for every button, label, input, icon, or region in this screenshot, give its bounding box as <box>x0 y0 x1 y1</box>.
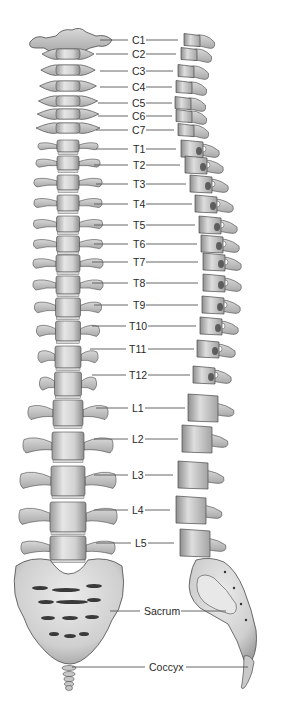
sacral-foramen <box>64 634 76 638</box>
vertebral-body <box>56 123 80 133</box>
rib-facet-shadow <box>218 260 224 268</box>
vertebra-t9-anterior <box>56 298 81 317</box>
intervertebral-disc <box>52 496 84 499</box>
vertebra-t7-anterior <box>56 255 80 272</box>
intervertebral-disc <box>54 426 82 429</box>
vertebra-c4-lateral <box>176 81 192 94</box>
label-c5: C5 <box>131 97 146 109</box>
label-t7: T7 <box>132 256 146 268</box>
coccyx-lateral <box>241 656 254 689</box>
transverse-process-right <box>79 143 98 150</box>
coccyx-segment-anterior <box>64 677 74 682</box>
vertebral-body <box>56 96 80 106</box>
sacral-foramen <box>32 586 48 590</box>
vertebra-t11-anterior <box>55 346 81 368</box>
sacral-foramen <box>41 616 55 620</box>
intervertebral-disc <box>58 152 78 155</box>
intervertebral-disc <box>58 190 78 193</box>
rib-facet-shadow <box>208 373 214 381</box>
label-c1: C1 <box>131 34 146 46</box>
vertebral-body <box>56 65 80 75</box>
label-t2: T2 <box>132 159 146 171</box>
label-t8: T8 <box>132 277 146 289</box>
intervertebral-disc <box>58 252 79 255</box>
sacral-foramen <box>52 588 80 592</box>
vertebra-l3-lateral <box>178 461 208 489</box>
sacral-foramen <box>62 616 78 620</box>
intervertebral-disc <box>58 170 78 173</box>
transverse-process-right <box>79 178 102 187</box>
sacrum-anterior <box>14 559 123 664</box>
intervertebral-disc <box>57 341 80 344</box>
vertebra-c2-lateral <box>181 48 197 61</box>
sacral-foramen <box>86 584 102 588</box>
intervertebral-disc <box>56 368 80 371</box>
label-c2: C2 <box>131 48 146 60</box>
transverse-process-right <box>81 302 102 313</box>
transverse-process-right <box>80 280 103 290</box>
rib-facet-shadow <box>214 223 220 231</box>
rib-facet-shadow <box>217 303 223 311</box>
transverse-process-right <box>80 219 103 228</box>
transverse-process-left <box>21 541 50 554</box>
label-t10: T10 <box>128 320 148 332</box>
lateral-view <box>175 34 257 689</box>
transverse-process-right <box>79 159 100 167</box>
intervertebral-disc <box>58 232 79 235</box>
sacral-foramen <box>87 598 101 602</box>
transverse-process-right <box>79 198 102 207</box>
transverse-process-left <box>38 143 57 150</box>
vertebra-c3-lateral <box>178 65 194 78</box>
sacral-foramen <box>85 615 99 619</box>
label-t9: T9 <box>132 299 146 311</box>
vertebral-body <box>56 49 80 59</box>
vertebra-l5-anterior <box>50 536 86 560</box>
transverse-process-left <box>28 405 53 419</box>
label-l3: L3 <box>131 469 145 481</box>
transverse-process-right <box>81 325 100 336</box>
transverse-process-left <box>39 377 54 390</box>
label-t12: T12 <box>128 369 148 381</box>
label-t3: T3 <box>132 178 146 190</box>
transverse-process-left <box>33 280 56 290</box>
vertebra-l5-lateral <box>180 529 210 557</box>
label-l4: L4 <box>131 504 145 516</box>
vertebra-c6-lateral <box>176 110 192 123</box>
transverse-process-left <box>19 508 50 524</box>
vertebra-t4-anterior <box>57 195 79 211</box>
vertebra-t12-anterior <box>55 372 82 396</box>
coccyx-segment-anterior <box>63 672 75 677</box>
vertebra-c1-lateral <box>184 34 200 47</box>
sacral-foramen <box>38 600 54 604</box>
label-l2: L2 <box>131 433 145 445</box>
label-t4: T4 <box>132 198 146 210</box>
vertebral-body <box>56 81 80 91</box>
sacral-foramen <box>49 632 59 636</box>
sacral-foramen <box>79 632 89 636</box>
label-l5: L5 <box>134 537 148 549</box>
vertebra-t3-anterior <box>57 175 79 190</box>
sacral-foramen-lateral <box>233 587 235 589</box>
label-l1: L1 <box>131 402 145 414</box>
transverse-process-right <box>81 351 98 363</box>
vertebra-t6-anterior <box>57 236 80 252</box>
label-t1: T1 <box>132 143 146 155</box>
vertebra-l1-lateral <box>188 394 218 422</box>
rib-facet-shadow <box>210 202 216 210</box>
sacral-foramen <box>56 600 88 604</box>
rib-facet-shadow <box>215 324 221 332</box>
coccyx-segment-anterior <box>66 686 73 691</box>
rib-facet-shadow <box>196 147 202 155</box>
label-t5: T5 <box>132 219 146 231</box>
transverse-process-left <box>33 239 56 248</box>
rib-facet-shadow <box>218 281 224 289</box>
label-t6: T6 <box>132 238 146 250</box>
vertebra-l2-lateral <box>182 425 212 453</box>
rib-facet-shadow <box>205 182 211 190</box>
transverse-process-left <box>33 219 56 228</box>
intervertebral-disc <box>57 317 80 320</box>
vertebra-l1-anterior <box>53 400 83 426</box>
spine-diagram: C1C2C3C4C5C6C7T1T2T3T4T5T6T7T8T9T10T11T1… <box>0 0 286 704</box>
vertebra-l3-anterior <box>51 466 85 496</box>
vertebra-t5-anterior <box>57 216 80 232</box>
